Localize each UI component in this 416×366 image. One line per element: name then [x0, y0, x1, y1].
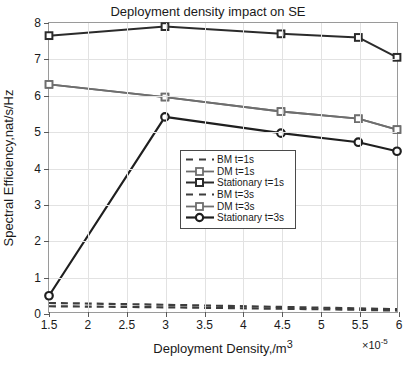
x-axis-tick — [321, 312, 322, 317]
x-axis-tick — [166, 312, 167, 317]
x-axis-tick-label: 5.5 — [352, 318, 369, 332]
x-axis-tick-label: 4 — [240, 318, 247, 332]
y-axis-tick — [44, 278, 49, 279]
series-line — [49, 27, 397, 58]
legend-item[interactable]: Stationary t=1s — [185, 177, 291, 189]
legend-item[interactable]: BM t=1s — [185, 154, 291, 166]
marker-circle — [277, 129, 285, 137]
grid-line-vertical — [360, 23, 361, 312]
x-axis-tick — [88, 312, 89, 317]
legend-item[interactable]: Stationary t=3s — [185, 212, 291, 224]
grid-line-horizontal — [49, 96, 397, 97]
marker-square — [46, 32, 53, 39]
x-axis-tick — [282, 312, 283, 317]
figure-canvas: Deployment density impact on SE Spectral… — [0, 0, 416, 366]
legend-label: Stationary t=1s — [215, 177, 284, 188]
legend-item[interactable]: DM t=3s — [185, 200, 291, 212]
x-axis-multiplier-base: ×10 — [362, 339, 381, 351]
marker-square — [46, 81, 53, 88]
grid-line-horizontal — [49, 132, 397, 133]
x-axis-tick-label: 4.5 — [274, 318, 291, 332]
grid-line-horizontal — [49, 278, 397, 279]
y-axis-tick — [44, 169, 49, 170]
legend-sample-none-icon — [185, 189, 215, 200]
y-axis-tick-label: 3 — [34, 198, 41, 212]
x-axis-multiplier-exponent: -5 — [381, 337, 388, 346]
y-axis-tick — [44, 96, 49, 97]
y-axis-label-container: Spectral Efficiency,nat/s/Hz — [14, 22, 15, 313]
x-axis-tick-label: 3.5 — [196, 318, 213, 332]
x-axis-tick — [399, 312, 400, 317]
y-axis-tick — [44, 241, 49, 242]
marker-circle — [393, 147, 401, 155]
x-axis-tick-label: 3 — [162, 318, 169, 332]
grid-line-vertical — [166, 23, 167, 312]
x-axis-tick — [127, 312, 128, 317]
chart-title: Deployment density impact on SE — [0, 4, 416, 19]
grid-line-horizontal — [49, 241, 397, 242]
grid-line-vertical — [127, 23, 128, 312]
x-axis-tick — [360, 312, 361, 317]
legend-item[interactable]: BM t=3s — [185, 189, 291, 201]
legend-sample-circle-icon — [185, 212, 215, 223]
x-axis-tick — [49, 312, 50, 317]
marker-square — [278, 108, 285, 115]
x-axis-tick — [243, 312, 244, 317]
series-line — [49, 84, 397, 129]
legend-sample-square-icon — [185, 166, 215, 177]
y-axis-tick-label: 1 — [34, 271, 41, 285]
x-axis-tick-label: 5 — [318, 318, 325, 332]
x-axis-tick — [205, 312, 206, 317]
grid-line-vertical — [88, 23, 89, 312]
legend-label: Stationary t=3s — [215, 212, 284, 223]
y-axis-tick — [44, 205, 49, 206]
x-axis-tick-label: 1.5 — [41, 318, 58, 332]
x-axis-multiplier: ×10-5 — [362, 337, 388, 351]
marker-circle — [45, 292, 53, 300]
legend-sample-square-icon — [185, 201, 215, 212]
x-axis-label-exponent: 3 — [287, 338, 293, 350]
y-axis-tick-label: 8 — [34, 16, 41, 30]
marker-square — [278, 30, 285, 37]
x-axis-label-text: Deployment Density,/m — [153, 341, 286, 356]
y-axis-tick-label: 7 — [34, 52, 41, 66]
y-axis-tick-label: 6 — [34, 89, 41, 103]
y-axis-label: Spectral Efficiency,nat/s/Hz — [1, 89, 16, 246]
y-axis-tick-label: 4 — [34, 162, 41, 176]
x-axis-tick-label: 2.5 — [118, 318, 135, 332]
y-axis-tick — [44, 132, 49, 133]
series-line — [49, 84, 397, 129]
legend-item[interactable]: DM t=1s — [185, 166, 291, 178]
y-axis-tick-label: 0 — [34, 307, 41, 321]
series-stationary-t-1s — [46, 23, 401, 60]
y-axis-tick — [44, 23, 49, 24]
grid-line-vertical — [321, 23, 322, 312]
x-axis-tick-label: 2 — [85, 318, 92, 332]
x-axis-tick-label: 6 — [396, 318, 403, 332]
x-axis-label: Deployment Density,/m3 — [48, 338, 398, 356]
y-axis-tick — [44, 59, 49, 60]
y-axis-tick-label: 5 — [34, 125, 41, 139]
legend-sample-none-icon — [185, 154, 215, 165]
grid-line-horizontal — [49, 59, 397, 60]
legend: BM t=1sDM t=1sStationary t=1sBM t=3sDM t… — [180, 150, 296, 229]
legend-sample-square-icon — [185, 177, 215, 188]
legend-label: DM t=1s — [215, 166, 255, 177]
series-bm-t-3s — [49, 306, 397, 310]
y-axis-tick-label: 2 — [34, 234, 41, 248]
series-line — [49, 306, 397, 310]
legend-label: DM t=3s — [215, 201, 255, 212]
legend-label: BM t=3s — [215, 189, 254, 200]
y-axis-tick — [44, 314, 49, 315]
legend-label: BM t=1s — [215, 154, 254, 165]
